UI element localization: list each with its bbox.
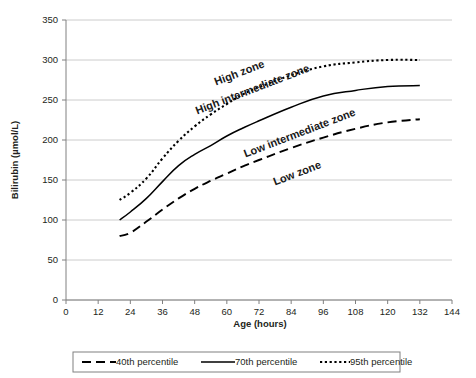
x-tick-label: 108 (348, 306, 364, 317)
x-tick-label: 84 (286, 306, 297, 317)
x-tick-label: 60 (222, 306, 233, 317)
x-tick-label: 96 (318, 306, 329, 317)
y-tick-label: 150 (42, 174, 58, 185)
zone-annotations: High zoneHigh intermediate zoneLow inter… (194, 57, 357, 187)
x-tick-label: 24 (125, 306, 136, 317)
y-tick-label: 100 (42, 214, 58, 225)
x-tick-label: 144 (444, 306, 460, 317)
x-axis-title: Age (hours) (233, 318, 286, 329)
x-tick-label: 132 (412, 306, 428, 317)
legend-label: 95th percentile (350, 356, 412, 367)
y-tick-label: 50 (47, 254, 58, 265)
bilirubin-nomogram-chart: 01224364860728496108120132144 0501001502… (0, 0, 476, 378)
chart-legend: 40th percentile70th percentile95th perce… (73, 352, 412, 372)
legend-label: 40th percentile (116, 356, 178, 367)
x-tick-label: 48 (189, 306, 200, 317)
chart-canvas: 01224364860728496108120132144 0501001502… (0, 0, 476, 378)
x-tick-label: 12 (93, 306, 104, 317)
series-line-solid (120, 86, 420, 220)
y-axis-title: Bilirubin (µmol/L) (9, 121, 20, 199)
y-tick-label: 250 (42, 94, 58, 105)
x-tick-label: 36 (157, 306, 168, 317)
zone-label: Low zone (271, 158, 322, 187)
x-tick-label: 120 (380, 306, 396, 317)
y-tick-label: 300 (42, 54, 58, 65)
x-axis-ticks: 01224364860728496108120132144 (63, 300, 460, 317)
x-tick-label: 0 (63, 306, 68, 317)
y-tick-label: 350 (42, 14, 58, 25)
x-tick-label: 72 (254, 306, 265, 317)
y-axis-ticks: 050100150200250300350 (42, 14, 66, 305)
legend-label: 70th percentile (235, 356, 297, 367)
y-tick-label: 200 (42, 134, 58, 145)
y-tick-label: 0 (53, 294, 58, 305)
